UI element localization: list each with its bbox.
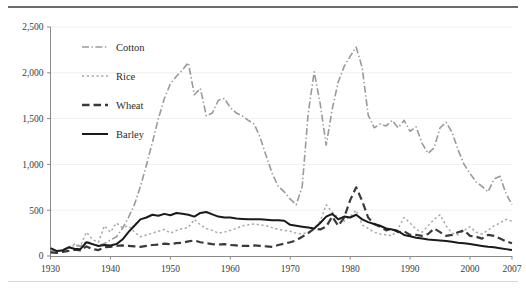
x-tick-label-1980: 1980 [341, 264, 360, 274]
y-tick-label-2500: 2,500 [22, 22, 44, 32]
legend-label-cotton: Cotton [116, 42, 145, 53]
y-tick-label-2000: 2,000 [22, 68, 44, 78]
x-tick-label-1950: 1950 [161, 264, 180, 274]
x-tick-label-1930: 1930 [41, 264, 60, 274]
y-tick-label-group: 05001,0001,5002,0002,500 [22, 22, 44, 261]
y-tick-mark-group [47, 27, 51, 256]
gridline-group [51, 27, 513, 210]
x-tick-label-1990: 1990 [401, 264, 420, 274]
axis-group [51, 27, 513, 257]
x-tick-label-1940: 1940 [101, 264, 120, 274]
chart-legend: CottonRiceWheatBarley [82, 42, 145, 140]
x-tick-label-group: 193019401950196019701980199020002007 [41, 264, 522, 274]
line-chart-plot: 05001,0001,5002,0002,500 193019401950196… [0, 0, 526, 288]
x-tick-label-2000: 2000 [461, 264, 480, 274]
legend-label-wheat: Wheat [116, 100, 143, 111]
x-tick-label-2007: 2007 [503, 264, 522, 274]
y-tick-label-1500: 1,500 [22, 114, 44, 124]
y-tick-label-500: 500 [29, 206, 44, 216]
legend-label-rice: Rice [116, 71, 136, 82]
legend-label-barley: Barley [116, 129, 145, 140]
x-tick-label-1970: 1970 [281, 264, 300, 274]
y-tick-label-0: 0 [39, 251, 44, 261]
y-tick-label-1000: 1,000 [22, 160, 44, 170]
chart-figure: 05001,0001,5002,0002,500 193019401950196… [0, 0, 526, 288]
x-tick-label-1960: 1960 [221, 264, 240, 274]
